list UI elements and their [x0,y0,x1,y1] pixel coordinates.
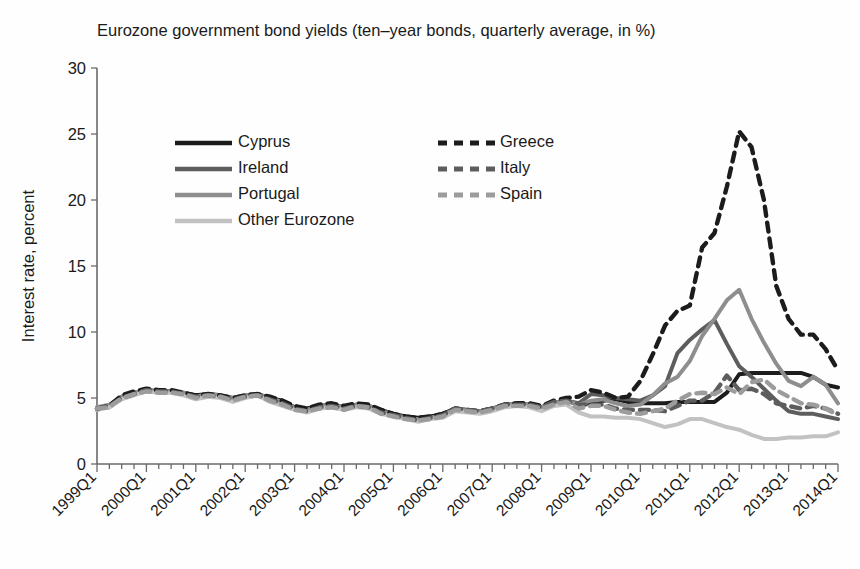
y-tick-label: 20 [68,191,86,209]
legend-label-portugal: Portugal [238,184,299,202]
y-tick-label: 25 [68,125,86,143]
legend-label-cyprus: Cyprus [238,132,290,150]
y-axis-label: Interest rate, percent [19,189,37,342]
y-tick-label: 5 [77,389,86,407]
y-tick-label: 30 [68,59,86,77]
legend-label-greece: Greece [500,132,554,150]
chart-title: Eurozone government bond yields (ten–yea… [97,21,656,39]
chart-figure: Eurozone government bond yields (ten–yea… [0,0,860,569]
legend-label-other-eurozone: Other Eurozone [238,210,354,228]
legend-label-spain: Spain [500,184,542,202]
legend-label-ireland: Ireland [238,158,288,176]
legend-label-italy: Italy [500,158,531,176]
y-tick-label: 10 [68,323,86,341]
y-tick-label: 15 [68,257,86,275]
